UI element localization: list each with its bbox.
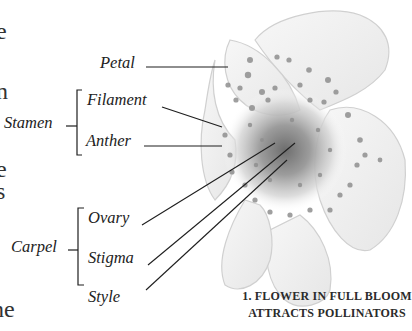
label-filament: Filament: [87, 90, 147, 110]
carpel-bracket: [78, 208, 84, 285]
label-petal: Petal: [100, 53, 135, 73]
label-style: Style: [88, 287, 120, 307]
caption-line-1: 1. FLOWER IN FULL BLOOM: [242, 288, 412, 305]
figure-caption: 1. FLOWER IN FULL BLOOM ATTRACTS POLLINA…: [242, 288, 412, 322]
label-stigma: Stigma: [88, 248, 134, 268]
label-ovary: Ovary: [88, 208, 129, 228]
label-anther: Anther: [86, 131, 131, 151]
stamen-bracket: [77, 90, 82, 155]
brackets: [66, 90, 84, 285]
label-stamen-group: Stamen: [4, 113, 53, 133]
label-carpel-group: Carpel: [11, 237, 57, 257]
caption-line-2: ATTRACTS POLLINATORS: [242, 305, 412, 322]
